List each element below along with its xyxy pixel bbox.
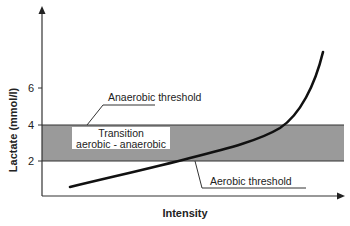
transition-label-line2: aerobic - anaerobic — [76, 138, 166, 150]
y-axis-arrow-icon — [39, 6, 46, 14]
y-axis-title: Lactate (mmol/l) — [7, 87, 19, 172]
tick-label-2: 2 — [28, 155, 34, 167]
x-axis-title: Intensity — [162, 207, 208, 219]
tick-label-4: 4 — [28, 119, 34, 131]
lactate-threshold-diagram: Transition aerobic - anaerobic 6 4 2 Lac… — [0, 0, 350, 226]
anaerobic-leader-line — [87, 105, 155, 125]
aerobic-threshold-label: Aerobic threshold — [210, 175, 292, 187]
x-axis-arrow-icon — [337, 193, 345, 200]
anaerobic-threshold-label: Anaerobic threshold — [108, 91, 202, 103]
tick-label-6: 6 — [28, 82, 34, 94]
